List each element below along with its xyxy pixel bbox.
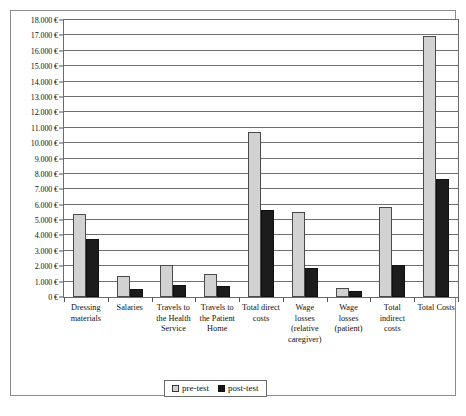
bar-post-test <box>305 268 318 297</box>
bar-post-test <box>392 265 405 297</box>
y-axis-tick-label: 4.000 € <box>35 231 58 240</box>
bar-post-test <box>130 289 143 297</box>
x-axis-tick-mark <box>414 297 415 302</box>
y-axis-tick-label: 14.000 € <box>31 77 58 86</box>
y-axis-tick-label: 17.000 € <box>31 31 58 40</box>
x-axis-tick-mark <box>458 297 459 302</box>
y-axis-tick-label: 12.000 € <box>31 108 58 117</box>
bar-pre-test <box>204 274 217 297</box>
bar-post-test <box>173 285 186 297</box>
bar-pre-test <box>248 132 261 297</box>
y-axis-tick-label: 9.000 € <box>35 154 58 163</box>
x-axis-ticks <box>64 297 458 302</box>
bar-pre-test <box>336 288 349 297</box>
x-axis-labels: Dressing materialsSalariesTravels to the… <box>64 303 458 359</box>
bar-group <box>370 20 414 297</box>
legend-item-pre-test: pre-test <box>172 383 209 393</box>
bars-layer <box>64 20 458 297</box>
bar-chart: 18.000 €17.000 €16.000 €15.000 €14.000 €… <box>0 0 466 416</box>
legend-label-post-test: post-test <box>228 383 259 393</box>
y-axis-tick-label: 13.000 € <box>31 92 58 101</box>
y-axis-tick-label: 0 € <box>48 293 58 302</box>
y-axis-tick-label: 18.000 € <box>31 16 58 25</box>
y-axis: 18.000 €17.000 €16.000 €15.000 €14.000 €… <box>0 0 63 416</box>
legend-item-post-test: post-test <box>218 383 259 393</box>
x-axis-category-label: Total Costs <box>407 303 465 314</box>
y-axis-tick-label: 15.000 € <box>31 62 58 71</box>
x-axis-tick-mark <box>152 297 153 302</box>
legend-label-pre-test: pre-test <box>182 383 209 393</box>
bar-pre-test <box>292 212 305 297</box>
bar-pre-test <box>423 36 436 297</box>
chart-legend: pre-test post-test <box>164 380 267 397</box>
bar-group <box>414 20 458 297</box>
y-axis-tick-label: 2.000 € <box>35 262 58 271</box>
y-axis-tick-label: 11.000 € <box>31 123 58 132</box>
y-axis-tick-label: 3.000 € <box>35 246 58 255</box>
bar-pre-test <box>73 214 86 297</box>
y-axis-tick-label: 16.000 € <box>31 46 58 55</box>
x-axis-tick-mark <box>370 297 371 302</box>
legend-swatch-post-test-icon <box>218 385 225 392</box>
x-axis-tick-mark <box>283 297 284 302</box>
y-axis-tick-label: 1.000 € <box>35 277 58 286</box>
legend-swatch-pre-test-icon <box>172 385 179 392</box>
bar-post-test <box>436 179 449 297</box>
bar-pre-test <box>160 265 173 297</box>
x-axis-tick-mark <box>327 297 328 302</box>
bar-group <box>283 20 327 297</box>
y-axis-tick-label: 6.000 € <box>35 200 58 209</box>
x-axis-tick-mark <box>64 297 65 302</box>
bar-post-test <box>261 210 274 297</box>
y-axis-tick-label: 7.000 € <box>35 185 58 194</box>
x-axis-tick-mark <box>239 297 240 302</box>
bar-group <box>195 20 239 297</box>
bar-pre-test <box>117 276 130 297</box>
bar-group <box>239 20 283 297</box>
y-axis-tick-label: 10.000 € <box>31 139 58 148</box>
bar-group <box>152 20 196 297</box>
y-axis-tick-label: 5.000 € <box>35 216 58 225</box>
bar-pre-test <box>379 207 392 297</box>
y-axis-tick-label: 8.000 € <box>35 169 58 178</box>
bar-post-test <box>86 239 99 297</box>
bar-group <box>108 20 152 297</box>
bar-group <box>64 20 108 297</box>
x-axis-tick-mark <box>108 297 109 302</box>
bar-group <box>327 20 371 297</box>
x-axis-tick-mark <box>195 297 196 302</box>
bar-post-test <box>217 286 230 297</box>
